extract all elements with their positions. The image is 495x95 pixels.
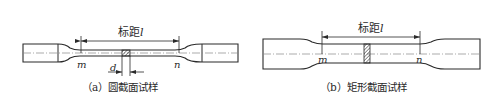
mark-m: m [77, 59, 86, 70]
mark-n: n [416, 54, 422, 65]
rectangular-specimen: 标距l m n （b）矩形截面试样 [263, 21, 480, 93]
mark-n: n [174, 59, 180, 70]
cross-section-hatch [122, 50, 130, 56]
arrow-head-left [81, 39, 87, 43]
round-specimen: 标距l m n d （a）圆截面试样 [23, 25, 238, 93]
caption-b: （b）矩形截面试样 [320, 81, 407, 93]
caption-a: （a）圆截面试样 [82, 81, 158, 93]
mark-m: m [318, 54, 327, 65]
arrow-head-left [322, 35, 328, 39]
diameter-label: d [110, 62, 116, 73]
cross-section-hatch [364, 44, 370, 63]
gauge-label: 标距l [118, 25, 144, 39]
gauge-label: 标距l [358, 21, 384, 35]
tensile-specimen-diagram: 标距l m n d （a）圆截面试样 标距l m n （b）矩形截面试样 [0, 0, 495, 95]
